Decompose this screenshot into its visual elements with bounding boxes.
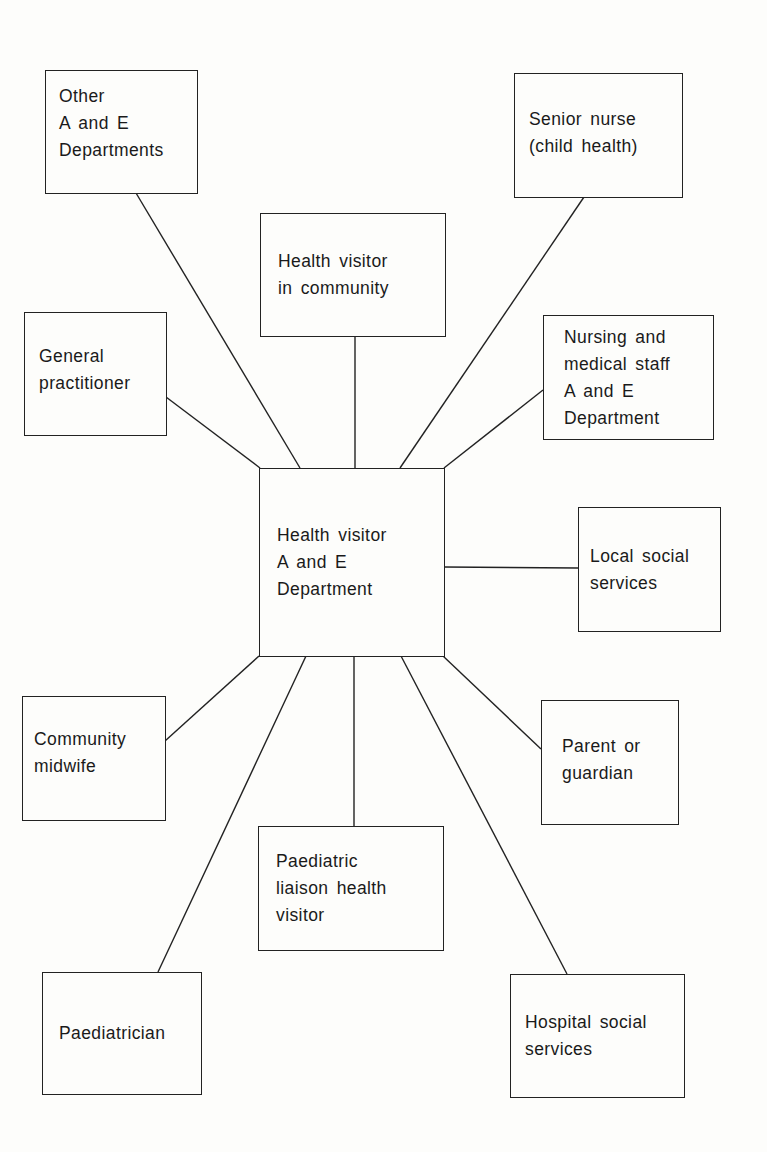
node-label-line: Nursing and [564,324,713,351]
node-hospital-social: Hospital social services [510,974,685,1098]
node-label-line: A and E [564,378,713,405]
node-hv-community: Health visitor in community [260,213,446,337]
node-label-line: Paediatrician [59,1020,201,1047]
edge-local-social [444,567,578,568]
node-label-line: Departments [59,137,197,164]
node-label-line: medical staff [564,351,713,378]
node-label-line: services [525,1036,684,1063]
node-label-line: Community [34,726,165,753]
node-gp: General practitioner [24,312,167,436]
node-paediatrician: Paediatrician [42,972,202,1095]
node-label-line: Health visitor [277,522,444,549]
node-label-line: in community [278,275,445,302]
node-label-line: midwife [34,753,165,780]
edge-parent [443,656,541,749]
node-label-line: guardian [562,760,678,787]
node-label-line: A and E [277,549,444,576]
node-nursing-medical: Nursing and medical staff A and E Depart… [543,315,714,440]
node-parent: Parent or guardian [541,700,679,825]
node-label-line: practitioner [39,370,166,397]
node-label-line: Health visitor [278,248,445,275]
edge-nursing-medical [444,390,543,468]
node-label-line: visitor [276,902,443,929]
node-label-line: Department [277,576,444,603]
node-label-line: A and E [59,110,197,137]
node-label-line: Senior nurse [529,106,682,133]
node-local-social: Local social services [578,507,721,632]
node-label-line: Local social [590,543,720,570]
node-label-line: services [590,570,720,597]
edge-midwife [165,656,259,741]
node-midwife: Community midwife [22,696,166,821]
node-label-line: (child health) [529,133,682,160]
edge-gp [166,397,260,468]
node-label-line: Other [59,83,197,110]
node-label-line: liaison health [276,875,443,902]
node-label-line: Parent or [562,733,678,760]
node-center-hv-ae: Health visitor A and E Department [259,468,445,657]
node-liaison: Paediatric liaison health visitor [258,826,444,951]
node-label-line: Hospital social [525,1009,684,1036]
node-label-line: Department [564,405,713,432]
node-label-line: General [39,343,166,370]
node-other-ae: Other A and E Departments [45,70,198,194]
node-senior-nurse: Senior nurse (child health) [514,73,683,198]
node-label-line: Paediatric [276,848,443,875]
